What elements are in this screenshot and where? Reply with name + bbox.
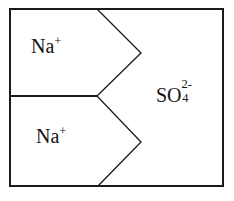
- sulfate-subscript: 4: [182, 92, 188, 104]
- region-label-sodium-upper: Na+: [31, 36, 61, 56]
- sodium-upper-symbol: Na: [31, 35, 54, 57]
- region-label-sodium-lower: Na+: [36, 126, 66, 146]
- region-label-sulfate: SO2-4: [156, 82, 194, 105]
- sodium-lower-charge: +: [59, 124, 66, 138]
- sodium-upper-charge: +: [54, 34, 61, 48]
- sulfate-symbol: SO: [156, 84, 182, 106]
- sulfate-charge: 2-: [182, 78, 192, 90]
- diagram-canvas: [0, 0, 234, 201]
- sodium-lower-symbol: Na: [36, 125, 59, 147]
- sulfate-affixes: 2-4: [182, 82, 194, 102]
- ion-diagram: Na+ Na+ SO2-4: [0, 0, 234, 201]
